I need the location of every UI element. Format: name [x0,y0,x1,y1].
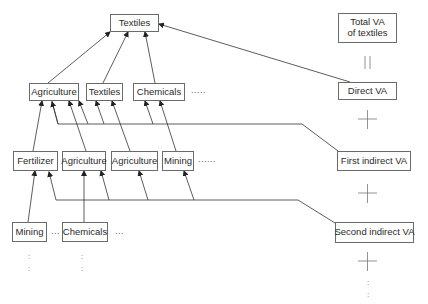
node-label: Mining [164,156,192,167]
level2-ellipsis: ...... [198,154,216,164]
node-level3-mining: Mining [12,222,47,242]
va-decomposition-diagram: Textiles Agriculture Textiles Chemicals … [0,0,428,304]
node-level1-chemicals: Chemicals [133,83,185,101]
direct-va-box: Direct VA [338,82,397,100]
node-label: Chemicals [137,87,181,98]
total-va-label: Total VA of textiles [347,17,387,39]
first-indirect-va-label: First indirect VA [341,156,407,167]
direct-va-label: Direct VA [348,86,387,97]
node-level2-agriculture-a: Agriculture [62,151,106,171]
first-indirect-va-box: First indirect VA [337,151,411,171]
node-label: Mining [16,227,44,238]
node-label: Textiles [89,87,121,98]
node-label: Agriculture [112,156,157,167]
node-label: Agriculture [31,87,76,98]
node-label: Chemicals [63,227,107,238]
second-indirect-va-box: Second indirect VA [335,222,414,243]
node-label: Agriculture [61,156,106,167]
continuation-dots-right: :: [365,277,371,301]
node-label: Textiles [119,18,151,29]
node-level1-agriculture: Agriculture [29,83,79,101]
node-label: Fertilizer [17,156,53,167]
second-indirect-va-label: Second indirect VA [334,227,414,238]
level3-ellipsis-end: ... [115,226,124,236]
total-va-box: Total VA of textiles [338,13,397,43]
level1-ellipsis: ..... [191,85,206,95]
continuation-dots-mid: :: [79,251,85,275]
node-level1-textiles: Textiles [86,83,123,101]
node-level2-mining: Mining [162,151,194,171]
node-level3-chemicals: Chemicals [62,222,108,242]
continuation-dots-left: :: [26,251,32,275]
node-level2-agriculture-b: Agriculture [111,151,158,171]
node-level2-fertilizer: Fertilizer [13,151,58,171]
level3-ellipsis-mid: ... [51,226,60,236]
node-textiles-top: Textiles [110,14,159,32]
